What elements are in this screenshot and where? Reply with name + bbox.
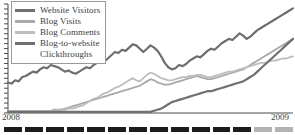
legend-item-blog-visits: Blog Visits [15,16,100,27]
legend-swatch-clickthroughs [15,42,35,45]
legend-item-blog-comments: Blog Comments [15,27,100,38]
legend-swatch-website-visitors [15,9,35,12]
tick-dash [171,127,189,132]
legend-label-clickthroughs-line2: Clickthroughs [40,49,100,60]
tick-dash [150,127,168,132]
tick-dash [129,127,147,132]
legend-swatch-blog-comments [15,31,35,34]
x-axis-label-2008: 2008 [2,112,20,122]
legend-swatch-blog-visits [15,20,35,23]
month-tick-strip [4,127,293,132]
tick-dash [108,127,126,132]
line-chart: Website Visitors Blog Visits Blog Commen… [0,0,295,135]
tick-dash [87,127,105,132]
legend-label-blog-comments: Blog Comments [40,27,100,38]
x-axis-label-2009: 2009 [271,112,289,122]
tick-dash [233,127,251,132]
tick-dash [275,127,293,132]
legend-label-clickthroughs: Blog-to-websiteClickthroughs [40,38,100,60]
legend-item-website-visitors: Website Visitors [15,5,100,16]
legend-label-website-visitors: Website Visitors [40,5,100,16]
tick-dash [192,127,210,132]
tick-dash [67,127,85,132]
tick-dash [46,127,64,132]
legend-label-clickthroughs-line1: Blog-to-website [40,38,100,48]
legend-item-clickthroughs: Blog-to-websiteClickthroughs [15,38,100,60]
legend-label-blog-visits: Blog Visits [40,16,81,27]
chart-legend: Website Visitors Blog Visits Blog Commen… [11,1,106,64]
tick-dash [254,127,272,132]
tick-dash [4,127,22,132]
tick-dash [213,127,231,132]
y-axis [4,4,8,113]
tick-dash [25,127,43,132]
